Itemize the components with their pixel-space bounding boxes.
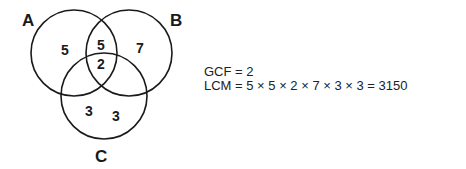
region-abc: 2 [97, 56, 105, 72]
lcm-equation: LCM = 5 × 5 × 2 × 7 × 3 × 3 = 3150 [204, 79, 407, 93]
label-b: B [170, 11, 182, 30]
region-c-only-1: 3 [85, 103, 93, 119]
label-a: A [22, 11, 34, 30]
region-c-only-2: 3 [112, 108, 120, 124]
region-a-only: 5 [61, 42, 69, 58]
region-ab: 5 [97, 37, 105, 53]
region-b-only: 7 [136, 40, 144, 56]
gcf-equation: GCF = 2 [204, 65, 254, 79]
label-c: C [95, 147, 107, 166]
